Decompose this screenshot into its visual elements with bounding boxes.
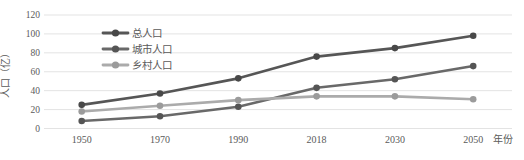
data-point-marker <box>470 96 477 103</box>
legend-swatch-marker <box>112 61 119 68</box>
data-point-marker <box>470 63 477 70</box>
data-point-marker <box>392 45 399 52</box>
x-tick-label: 1950 <box>72 134 92 145</box>
y-tick-label: 60 <box>31 67 41 77</box>
series-line-1 <box>82 66 474 121</box>
x-tick-label: 1990 <box>228 134 248 145</box>
data-point-marker <box>313 93 320 100</box>
data-point-marker <box>392 76 399 83</box>
legend-label: 城市人口 <box>132 43 172 55</box>
y-tick-label: 100 <box>26 29 41 39</box>
x-tick-label: 2018 <box>307 134 327 145</box>
data-point-marker <box>157 90 164 97</box>
chart-canvas: 020406080100120195019701990201820302050年… <box>0 0 524 160</box>
legend-label: 乡村人口 <box>132 59 172 71</box>
data-point-marker <box>157 103 164 110</box>
y-axis-title: 人口（亿） <box>0 48 11 98</box>
x-tick-label: 2050 <box>463 134 483 145</box>
legend-label: 总人口 <box>132 27 162 39</box>
data-point-marker <box>235 97 242 104</box>
data-point-marker <box>157 113 164 120</box>
data-point-marker <box>78 118 85 125</box>
data-point-marker <box>313 85 320 92</box>
y-tick-label: 80 <box>31 48 41 58</box>
data-point-marker <box>313 53 320 60</box>
y-tick-label: 20 <box>31 105 41 115</box>
population-line-chart: 020406080100120195019701990201820302050年… <box>0 0 524 160</box>
x-axis-title: 年份 <box>493 133 513 145</box>
legend-swatch-marker <box>112 45 119 52</box>
data-point-marker <box>235 75 242 82</box>
legend-swatch-marker <box>112 29 119 36</box>
x-tick-label: 1970 <box>150 134 170 145</box>
y-tick-label: 120 <box>26 10 41 20</box>
data-point-marker <box>470 33 477 40</box>
y-tick-label: 40 <box>31 86 41 96</box>
data-point-marker <box>235 103 242 110</box>
x-tick-label: 2030 <box>385 134 405 145</box>
data-point-marker <box>392 93 399 100</box>
y-tick-label: 0 <box>35 124 40 134</box>
data-point-marker <box>78 108 85 115</box>
data-point-marker <box>78 102 85 109</box>
